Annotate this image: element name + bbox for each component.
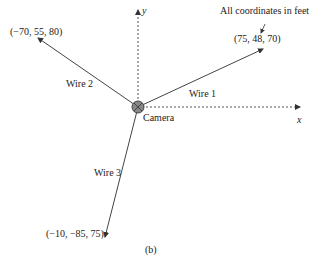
note-arrow (261, 24, 265, 33)
diagram-canvas: y x All coordinates in feet (75, 48, 70)… (0, 0, 310, 259)
units-note: All coordinates in feet (220, 6, 309, 16)
y-axis-label: y (142, 6, 146, 16)
camera-label: Camera (143, 113, 174, 123)
figure-caption: (b) (145, 245, 157, 255)
wire-3-endpoint: (−10, −85, 75) (46, 229, 104, 239)
wire-1-label: Wire 1 (189, 89, 216, 99)
wire-1-endpoint: (75, 48, 70) (234, 34, 281, 44)
wire-2-label: Wire 2 (66, 79, 93, 89)
wire-2-endpoint: (−70, 55, 80) (10, 27, 62, 37)
wire-2 (38, 38, 138, 107)
x-axis-label: x (297, 115, 301, 125)
wire-3-label: Wire 3 (94, 168, 121, 178)
